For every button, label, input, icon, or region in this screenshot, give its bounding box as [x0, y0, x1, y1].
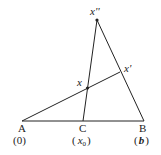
point-b-label: B — [139, 122, 146, 134]
point-b-coord: (b) — [134, 134, 149, 147]
segment-apex-c — [83, 20, 97, 121]
point-c-coord: (x0) — [72, 134, 91, 148]
triangle-diagram: x'' x' x A (0) C (x0) B (b) — [0, 0, 161, 155]
x-prime-label: x' — [123, 62, 132, 74]
point-c-label: C — [79, 122, 86, 134]
point-a-coord: (0) — [13, 134, 26, 147]
x-point — [86, 86, 89, 89]
segment-apex-b — [97, 20, 144, 121]
segment-a-xprime — [22, 72, 120, 121]
x-label: x — [76, 76, 82, 88]
point-a-label: A — [18, 122, 26, 134]
apex-point — [95, 18, 98, 21]
apex-label: x'' — [89, 5, 100, 17]
